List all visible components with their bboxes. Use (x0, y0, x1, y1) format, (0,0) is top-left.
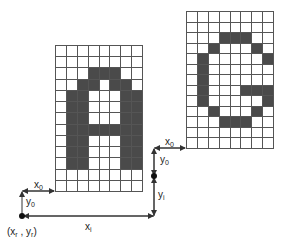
y0-left-label: y0 (26, 197, 35, 208)
yi-label: yi (158, 190, 165, 201)
x0-right-label: x0 (165, 137, 174, 148)
x0-left-label: x0 (34, 180, 43, 191)
origin-label: (xr , yr) (7, 227, 37, 238)
glyph-positioning-diagram: x0 y0 (xr , yr) xi yi y0 x0 (0, 0, 283, 244)
origin-point (19, 213, 25, 219)
glyph-origin-point (151, 173, 157, 179)
y0-right-label: y0 (160, 155, 169, 166)
dimension-lines (0, 0, 283, 244)
xi-label: xi (85, 222, 92, 233)
